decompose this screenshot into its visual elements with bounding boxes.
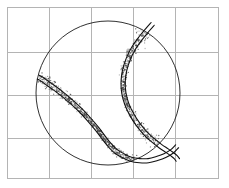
scatter-point — [60, 87, 61, 88]
scatter-point — [126, 161, 127, 162]
scatter-point — [123, 73, 124, 74]
scatter-point — [134, 117, 135, 118]
scatter-point — [131, 51, 132, 52]
scatter-point — [88, 119, 89, 120]
scatter-point — [48, 78, 49, 79]
scatter-point — [47, 76, 48, 77]
scatter-point — [123, 81, 124, 82]
scatter-point — [132, 48, 133, 49]
scatter-point — [121, 65, 122, 66]
scatter-point — [127, 106, 128, 107]
scatter-point — [38, 81, 39, 82]
scatter-point — [84, 115, 85, 116]
scatter-point — [83, 113, 84, 114]
plot-background — [0, 0, 229, 188]
scatter-point — [146, 142, 147, 143]
scatter-point — [132, 118, 133, 119]
scatter-point — [145, 33, 146, 34]
scatter-point — [53, 94, 54, 95]
scatter-point — [136, 45, 137, 46]
scatter-point — [136, 155, 137, 156]
scatter-point — [125, 102, 126, 103]
scatter-point — [128, 108, 129, 109]
scatter-point — [128, 56, 129, 57]
scatter-point — [76, 111, 77, 112]
scatter-point — [68, 98, 69, 99]
scatter-point — [135, 113, 136, 114]
scatter-point — [158, 135, 159, 136]
scatter-point — [135, 111, 136, 112]
scatter-point — [93, 125, 94, 126]
scatter-point — [59, 98, 60, 99]
scatter-point — [143, 123, 144, 124]
scatter-point — [54, 87, 55, 88]
figure-root — [0, 0, 229, 188]
scatter-point — [122, 88, 123, 89]
scatter-point — [126, 51, 127, 52]
scatter-point — [121, 154, 122, 155]
scatter-point — [125, 157, 126, 158]
scatter-point — [41, 83, 42, 84]
scatter-point — [121, 68, 122, 69]
plot-canvas — [0, 0, 229, 188]
scatter-point — [75, 100, 76, 101]
scatter-point — [145, 139, 146, 140]
scatter-point — [61, 94, 62, 95]
scatter-point — [146, 134, 147, 135]
scatter-point — [126, 53, 127, 54]
scatter-point — [51, 86, 52, 87]
scatter-point — [123, 77, 124, 78]
scatter-point — [141, 122, 142, 123]
scatter-point — [138, 30, 139, 31]
scatter-point — [45, 88, 46, 89]
scatter-point — [123, 61, 124, 62]
scatter-point — [140, 133, 141, 134]
scatter-point — [126, 153, 127, 154]
scatter-point — [43, 81, 44, 82]
scatter-point — [66, 96, 67, 97]
scatter-point — [126, 157, 127, 158]
scatter-point — [147, 38, 148, 39]
scatter-point — [143, 136, 144, 137]
scatter-point — [146, 37, 147, 38]
scatter-point — [66, 90, 67, 91]
scatter-point — [131, 159, 132, 160]
scatter-point — [56, 88, 57, 89]
scatter-point — [131, 113, 132, 114]
scatter-point — [107, 147, 108, 148]
scatter-point — [138, 49, 139, 50]
scatter-point — [103, 137, 104, 138]
scatter-point — [123, 79, 124, 80]
scatter-point — [126, 50, 127, 51]
scatter-point — [44, 86, 45, 87]
scatter-point — [101, 135, 102, 136]
scatter-point — [130, 111, 131, 112]
scatter-point — [158, 138, 159, 139]
scatter-point — [131, 59, 132, 60]
scatter-point — [76, 105, 77, 106]
scatter-point — [119, 74, 120, 75]
scatter-point — [102, 136, 103, 137]
scatter-point — [127, 49, 128, 50]
scatter-point — [152, 139, 153, 140]
scatter-point — [115, 150, 116, 151]
scatter-point — [124, 85, 125, 86]
scatter-point — [107, 141, 108, 142]
scatter-point — [125, 99, 126, 100]
scatter-point — [84, 114, 85, 115]
scatter-point — [81, 116, 82, 117]
scatter-point — [58, 86, 59, 87]
scatter-point — [134, 39, 135, 40]
scatter-point — [157, 142, 158, 143]
scatter-point — [126, 104, 127, 105]
scatter-point — [127, 50, 128, 51]
scatter-point — [139, 40, 140, 41]
scatter-point — [136, 31, 137, 32]
scatter-point — [131, 49, 132, 50]
scatter-point — [112, 153, 113, 154]
scatter-point — [49, 83, 50, 84]
scatter-point — [132, 115, 133, 116]
scatter-point — [128, 57, 129, 58]
scatter-point — [120, 69, 121, 70]
scatter-point — [145, 39, 146, 40]
